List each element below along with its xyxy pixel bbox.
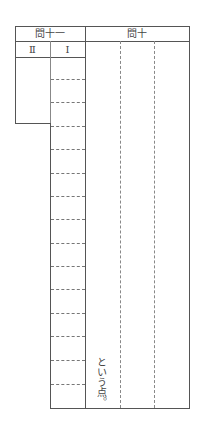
q11-II-subheader: Ⅱ	[15, 42, 50, 57]
q11-I-answer-area[interactable]	[51, 58, 85, 408]
q11-I-subheader: Ⅰ	[50, 42, 85, 57]
q11-II-answer-area[interactable]	[16, 58, 50, 123]
frame-bottom	[50, 408, 190, 409]
q10-trailing-text: という点。	[95, 357, 106, 407]
q10-answer-area[interactable]	[86, 42, 189, 408]
frame-right	[189, 26, 190, 408]
q11-header: 問十一	[15, 26, 85, 41]
q11-II-bottom	[15, 123, 51, 124]
q10-header: 問十	[85, 26, 189, 41]
